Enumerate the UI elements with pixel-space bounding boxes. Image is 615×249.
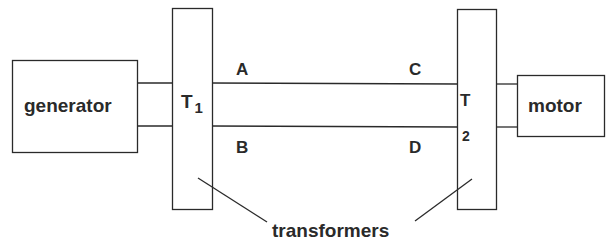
label-d: D: [409, 138, 421, 157]
transformer-t2-subscript: 2: [462, 128, 470, 144]
transmission-line-ac: [212, 83, 457, 84]
t1-letter: T: [181, 91, 193, 112]
motor-label: motor: [528, 95, 582, 116]
leader-line-t1: [198, 178, 267, 222]
transformers-annotation: transformers: [272, 220, 389, 241]
transformer-t1-label: T1: [181, 91, 203, 116]
generator-label: generator: [24, 95, 112, 116]
t1-subscript: 1: [195, 99, 203, 116]
transmission-line-bd: [212, 126, 457, 127]
label-c: C: [409, 60, 421, 79]
transformer-t2-label: T: [460, 91, 471, 110]
label-b: B: [236, 138, 248, 157]
label-a: A: [236, 60, 248, 79]
power-transmission-diagram: generator T1 A B C D T 2 motor transform…: [0, 0, 615, 249]
leader-line-t2: [415, 179, 472, 221]
